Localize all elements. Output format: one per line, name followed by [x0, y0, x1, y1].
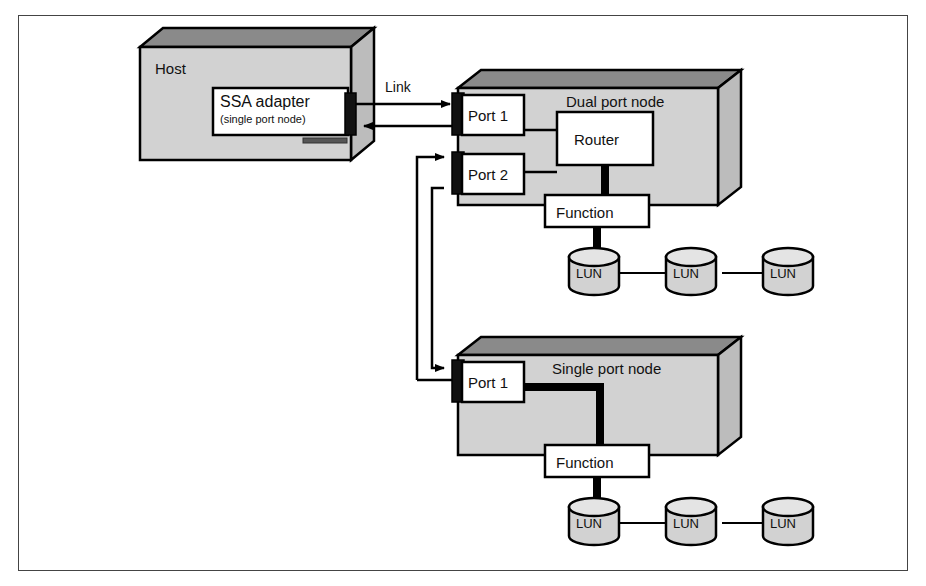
dual-node-function-label: Function [556, 204, 614, 221]
dual-node-port-1-label: Port 1 [468, 107, 508, 124]
single-node-side-face [718, 337, 741, 455]
single-node-top-face [458, 337, 741, 355]
single-node-port-1: Port 1 [452, 360, 524, 402]
dual-node-top-face [458, 70, 741, 88]
adapter-port-connector [345, 93, 356, 135]
dual-node-port-2: Port 2 [452, 152, 524, 194]
dual-lun-2: LUN [666, 248, 716, 295]
single-lun-2: LUN [666, 498, 716, 545]
single-lun-1-label: LUN [576, 516, 602, 531]
host-box-top-face [140, 28, 374, 47]
single-lun-1-top [569, 498, 619, 516]
host-label: Host [155, 60, 187, 77]
dual-lun-3: LUN [763, 248, 813, 295]
single-lun-2-top [666, 498, 716, 516]
single-node-lun-chain: LUN LUN LUN [569, 498, 813, 545]
loop-cable-arrows [417, 157, 452, 380]
router-box: Router [557, 112, 653, 165]
router-to-function-link [601, 164, 609, 196]
single-node-function-label: Function [556, 454, 614, 471]
dual-node-port-2-label: Port 2 [468, 166, 508, 183]
adapter-slot-bar [303, 138, 347, 143]
dual-node-lun-chain: LUN LUN LUN [569, 248, 813, 295]
dual-node-side-face [718, 70, 741, 205]
ssa-adapter-title: SSA adapter [220, 93, 311, 110]
loop-cable-down-to-single-port1 [432, 188, 444, 368]
ssa-adapter-box: SSA adapter (single port node) [213, 88, 356, 143]
single-lun-3-top [763, 498, 813, 516]
single-node-function-box: Function [545, 445, 649, 502]
single-port-node-label: Single port node [552, 360, 661, 377]
dual-node-function-box: Function [545, 195, 649, 252]
single-lun-3: LUN [763, 498, 813, 545]
dual-lun-1: LUN [569, 248, 619, 295]
dual-lun-2-label: LUN [673, 266, 699, 281]
single-lun-3-label: LUN [770, 516, 796, 531]
single-node-port-1-label: Port 1 [468, 374, 508, 391]
dual-lun-1-top [569, 248, 619, 266]
diagram-canvas: Host SSA adapter (single port node) Link [0, 0, 926, 586]
single-lun-1: LUN [569, 498, 619, 545]
router-label: Router [574, 131, 619, 148]
dual-lun-1-label: LUN [576, 266, 602, 281]
diagram-stage: Host SSA adapter (single port node) Link [0, 0, 926, 586]
single-port1-vertical-link [596, 383, 604, 450]
single-port1-horizontal-link [524, 383, 604, 391]
dual-port-node-label: Dual port node [566, 93, 664, 110]
single-lun-2-label: LUN [673, 516, 699, 531]
link-label: Link [385, 79, 412, 95]
dual-node-port-1: Port 1 [452, 93, 524, 135]
dual-lun-2-top [666, 248, 716, 266]
dual-lun-3-top [763, 248, 813, 266]
dual-lun-3-label: LUN [770, 266, 796, 281]
loop-cable-up-to-dual-port2 [417, 157, 444, 380]
ssa-adapter-subtitle: (single port node) [220, 113, 306, 125]
